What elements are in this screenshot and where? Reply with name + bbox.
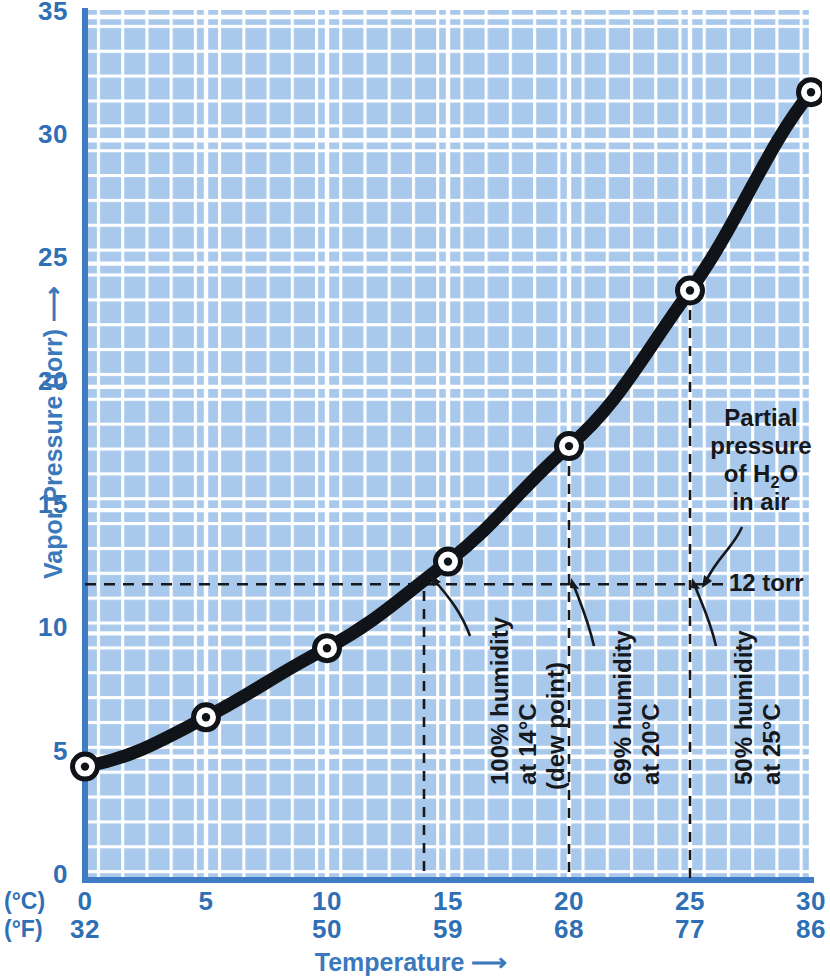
annotation-partial-pressure-line4: in air (706, 489, 816, 516)
data-point (436, 549, 461, 574)
annotation-partial-pressure-line2: pressure (701, 433, 821, 460)
annotation-69-humidity-line2: at 20°C (638, 703, 665, 785)
annotation-partial-pressure-line1: Partial (706, 405, 816, 432)
annotation-pp-o: O (780, 460, 799, 487)
annotation-dew-point-line2: at 14°C (515, 703, 542, 785)
annotation-50-humidity-line2: at 25°C (759, 703, 786, 785)
x-tick-celsius-5: 5 (176, 886, 236, 917)
annotation-50-humidity-line1: 50% humidity (731, 630, 758, 785)
x-tick-fahrenheit-59: 59 (418, 914, 478, 945)
y-tick-30: 30 (10, 119, 68, 150)
x-axis-title: Temperature ⟶ (0, 948, 822, 977)
annotation-dew-point-line1: 100% humidity (487, 617, 514, 785)
data-point (194, 705, 219, 730)
data-point (799, 80, 823, 105)
fahrenheit-unit-label: (°F) (4, 916, 43, 943)
annotation-dew-point-line3: (dew point) (543, 662, 570, 790)
data-point (73, 754, 98, 779)
data-point (315, 636, 340, 661)
x-tick-celsius-0: 0 (55, 886, 115, 917)
y-tick-35: 35 (10, 0, 68, 27)
x-tick-celsius-20: 20 (539, 886, 599, 917)
x-tick-celsius-25: 25 (660, 886, 720, 917)
x-tick-fahrenheit-77: 77 (660, 914, 720, 945)
data-point (557, 434, 582, 459)
x-tick-celsius-10: 10 (297, 886, 357, 917)
x-tick-fahrenheit-86: 86 (781, 914, 830, 945)
annotation-partial-pressure-line3: of H2O (706, 461, 816, 491)
x-tick-celsius-30: 30 (781, 886, 830, 917)
annotation-69-humidity-line1: 69% humidity (610, 630, 637, 785)
annotation-12-torr: 12 torr (729, 570, 804, 597)
x-tick-fahrenheit-50: 50 (297, 914, 357, 945)
y-tick-5: 5 (10, 736, 68, 767)
y-axis-title: Vapor Pressure (torr) ⟶ (39, 268, 68, 598)
celsius-unit-label: (°C) (4, 888, 45, 915)
annotation-pp-of-h: of H (724, 460, 771, 487)
data-point (678, 278, 703, 303)
x-tick-fahrenheit-68: 68 (539, 914, 599, 945)
x-tick-celsius-15: 15 (418, 886, 478, 917)
y-tick-10: 10 (10, 612, 68, 643)
x-tick-fahrenheit-32: 32 (55, 914, 115, 945)
